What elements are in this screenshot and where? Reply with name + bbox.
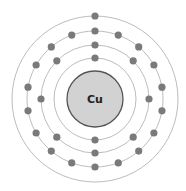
electron <box>91 149 98 156</box>
electron <box>91 54 98 61</box>
electron <box>145 95 152 102</box>
electron <box>115 159 122 166</box>
electron <box>130 57 137 64</box>
electron <box>53 57 60 64</box>
electron <box>130 134 137 141</box>
electron <box>33 129 40 136</box>
bohr-diagram: Cu <box>0 0 186 191</box>
electron <box>91 136 98 143</box>
electron <box>91 163 98 170</box>
electron <box>48 43 55 50</box>
electron <box>68 31 75 38</box>
electron <box>91 27 98 34</box>
electron <box>53 134 60 141</box>
electron <box>158 84 165 91</box>
electron <box>150 61 157 68</box>
electron <box>135 43 142 50</box>
electron <box>91 12 98 19</box>
element-symbol: Cu <box>87 93 103 106</box>
electron <box>48 147 55 154</box>
electron <box>24 107 31 114</box>
electron <box>115 31 122 38</box>
nucleus: Cu <box>67 71 123 127</box>
electron <box>24 84 31 91</box>
electron <box>150 129 157 136</box>
electron <box>158 107 165 114</box>
electron <box>37 95 44 102</box>
electron <box>33 61 40 68</box>
electron <box>91 41 98 48</box>
electron <box>68 159 75 166</box>
electron <box>135 147 142 154</box>
